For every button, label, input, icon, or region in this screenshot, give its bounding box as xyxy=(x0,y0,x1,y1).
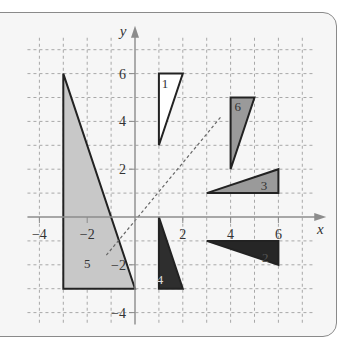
original-triangle xyxy=(63,74,135,289)
x-tick-label: −2 xyxy=(80,227,95,242)
y-tick-label: 2 xyxy=(119,162,126,177)
triangle-label-2: 2 xyxy=(262,250,269,265)
y-tick-label: −4 xyxy=(111,306,126,321)
triangle-label-4: 4 xyxy=(157,272,164,287)
y-axis-arrow-icon xyxy=(131,26,139,38)
coordinate-plane: −4−2246642−2−4xy163245 xyxy=(0,0,347,343)
x-axis-label: x xyxy=(316,221,324,237)
x-axis-arrow-icon xyxy=(314,213,326,221)
x-tick-label: 6 xyxy=(275,227,282,242)
y-tick-label: 6 xyxy=(119,67,126,82)
y-tick-label: −2 xyxy=(111,258,126,273)
reflection-line-label: 5 xyxy=(84,256,91,271)
y-axis-label: y xyxy=(118,23,127,39)
triangle-label-1: 1 xyxy=(162,76,169,91)
triangle-label-3: 3 xyxy=(261,178,268,193)
x-tick-label: −4 xyxy=(32,227,47,242)
x-tick-label: 2 xyxy=(179,227,186,242)
y-tick-label: 4 xyxy=(119,114,126,129)
triangle-label-6: 6 xyxy=(235,99,242,114)
x-tick-label: 4 xyxy=(227,227,234,242)
triangle-3 xyxy=(207,169,279,193)
triangles xyxy=(63,74,278,289)
